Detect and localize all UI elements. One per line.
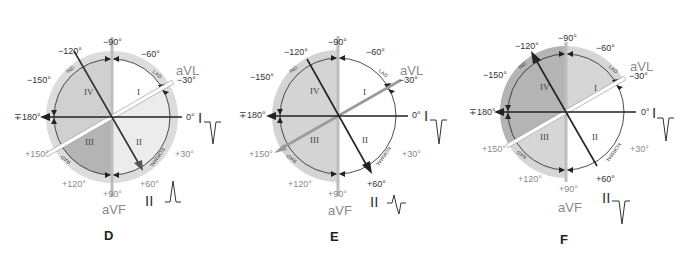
label-minus60: −60° — [596, 44, 615, 53]
label-plus60: +60° — [367, 180, 386, 189]
label-minus120: −120° — [284, 48, 308, 57]
label-plus150: +150° — [25, 150, 49, 159]
quadrant-ii-label: II — [136, 138, 142, 147]
lead-avf-label: aVF — [558, 201, 582, 214]
label-minus60: −60° — [141, 50, 160, 59]
label-0: 0° — [412, 111, 421, 120]
lead-i-label: I — [652, 105, 656, 120]
lead-i-label: I — [198, 110, 202, 125]
label-minus30: −30° — [629, 72, 648, 81]
label-plus30: +30° — [175, 150, 194, 159]
label-plus60: +60° — [596, 175, 615, 184]
label-plus90: +90° — [103, 190, 122, 199]
quadrant-i-label: I — [594, 84, 597, 93]
lead-avf-label: aVF — [102, 203, 126, 216]
quadrant-iv-label: IV — [540, 83, 550, 92]
label-minus60: −60° — [366, 48, 385, 57]
panel-f: −90° −120° −60° −150° aVL −30° ∓180° 0° … — [454, 0, 684, 262]
quadrant-iii-label: III — [85, 138, 94, 147]
label-minus30: −30° — [399, 76, 418, 85]
quadrant-i-label: I — [363, 88, 366, 97]
lead-i-label: I — [424, 108, 428, 123]
lead-ii-waveform-negative — [612, 201, 630, 224]
label-plus120: +120° — [62, 180, 86, 189]
label-minus120: −120° — [515, 42, 539, 51]
lead-ii-waveform-positive — [165, 181, 181, 202]
label-minus90: −90° — [328, 38, 347, 47]
lead-ii-label: II — [370, 194, 378, 209]
lead-i-waveform-negative — [430, 120, 447, 144]
label-0: 0° — [186, 113, 195, 122]
label-plus120: +120° — [518, 175, 542, 184]
quadrant-iv-label: IV — [310, 87, 320, 96]
quadrant-i-label: I — [137, 88, 140, 97]
label-plus30: +30° — [402, 150, 421, 159]
label-180: ∓180° — [14, 113, 41, 122]
label-minus150: −150° — [27, 76, 51, 85]
lead-i-waveform-negative — [657, 118, 674, 141]
quadrant-iii-label: III — [540, 133, 549, 142]
quadrant-ii-label: II — [592, 133, 598, 142]
label-180: ∓180° — [239, 111, 266, 120]
label-180: ∓180° — [469, 108, 496, 117]
label-minus150: −150° — [250, 73, 274, 82]
panel-letter-d: D — [104, 229, 113, 242]
label-minus30: −30° — [177, 76, 196, 85]
panel-e: −90° −120° −60° −150° aVL −30° ∓180° 0° … — [226, 0, 456, 262]
label-plus150: +150° — [249, 150, 273, 159]
quadrant-ii-label: II — [362, 136, 368, 145]
hexaxial-reference-figure: −90° −120° −60° −150° aVL −30° ∓180° 0° … — [0, 0, 692, 262]
label-plus150: +150° — [482, 145, 506, 154]
label-minus150: −150° — [483, 71, 507, 80]
lead-i-waveform-negative — [204, 122, 221, 144]
label-plus60: +60° — [140, 180, 159, 189]
panel-d: −90° −120° −60° −150° aVL −30° ∓180° 0° … — [0, 0, 230, 262]
label-0: 0° — [641, 108, 650, 117]
label-minus90: −90° — [558, 34, 577, 43]
quadrant-iii-label: III — [310, 136, 319, 145]
label-plus90: +90° — [328, 190, 347, 199]
lead-ii-waveform-biphasic — [387, 195, 406, 214]
quadrant-iv-label: IV — [84, 88, 94, 97]
lead-ii-label: II — [602, 190, 610, 205]
label-plus120: +120° — [288, 180, 312, 189]
panel-letter-e: E — [330, 230, 339, 243]
label-plus30: +30° — [630, 145, 649, 154]
label-minus90: −90° — [103, 38, 122, 47]
label-minus120: −120° — [58, 47, 82, 56]
lead-avf-label: aVF — [328, 204, 352, 217]
panel-letter-f: F — [560, 233, 568, 246]
lead-ii-label: II — [145, 193, 153, 208]
label-plus90: +90° — [559, 185, 578, 194]
